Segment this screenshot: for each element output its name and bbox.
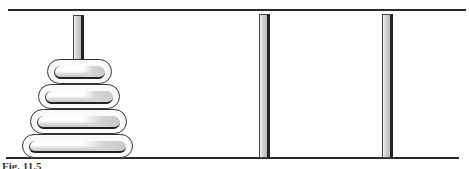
peg-right: [382, 14, 393, 158]
tower-of-hanoi-diagram: Fig. 11.5: [0, 0, 469, 169]
disk-2: [38, 84, 120, 109]
figure-caption: Fig. 11.5: [2, 161, 41, 169]
peg-middle: [259, 14, 270, 158]
disk-4-largest: [22, 134, 133, 158]
disk-1-smallest: [47, 59, 112, 84]
disk-shading: [29, 141, 126, 153]
top-border-line: [8, 9, 466, 11]
disk-3: [30, 109, 127, 134]
disk-shading: [45, 91, 113, 104]
disk-shading: [37, 116, 120, 129]
disk-shading: [54, 66, 105, 79]
